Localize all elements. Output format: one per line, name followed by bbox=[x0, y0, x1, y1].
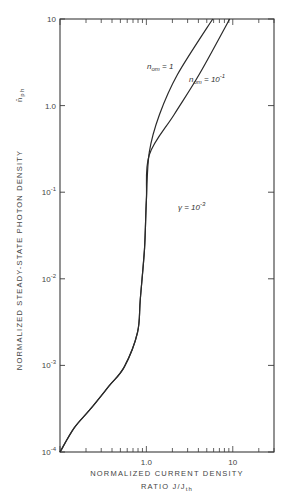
y-tick-label: 1.0 bbox=[45, 102, 57, 111]
x-axis-label-line2: RATIO J/Jth bbox=[141, 482, 193, 492]
y-tick-label: 10-3 bbox=[42, 359, 57, 370]
y-tick-label: 10-4 bbox=[42, 446, 57, 457]
x-axis-ticks: 1.010 bbox=[60, 19, 274, 467]
chart: 1.010 101.010-110-210-310-4 nom = 1 nom … bbox=[0, 0, 289, 501]
y-tick-label: 10 bbox=[47, 15, 56, 24]
plot-border bbox=[60, 19, 274, 452]
y-tick-label: 10-2 bbox=[42, 273, 57, 284]
gamma-annotation: γ = 10-3 bbox=[178, 201, 206, 212]
y-tick-label: 10-1 bbox=[42, 186, 57, 197]
y-axis-ticks: 101.010-110-210-310-4 bbox=[42, 15, 274, 457]
x-axis-label-line1: NORMALIZED CURRENT DENSITY bbox=[90, 469, 244, 478]
y-axis-label-symbol: n̄ph bbox=[15, 88, 25, 102]
y-axis-label-text: NORMALIZED STEADY-STATE PHOTON DENSITY bbox=[15, 150, 24, 370]
series-label-nom-0.1: nom = 10-1 bbox=[189, 73, 225, 85]
series-label-nom-1: nom = 1 bbox=[147, 62, 173, 72]
plot-frame bbox=[60, 19, 274, 452]
y-axis-label: NORMALIZED STEADY-STATE PHOTON DENSITY n… bbox=[15, 88, 25, 371]
x-tick-label: 10 bbox=[228, 458, 237, 467]
x-tick-label: 1.0 bbox=[141, 458, 153, 467]
